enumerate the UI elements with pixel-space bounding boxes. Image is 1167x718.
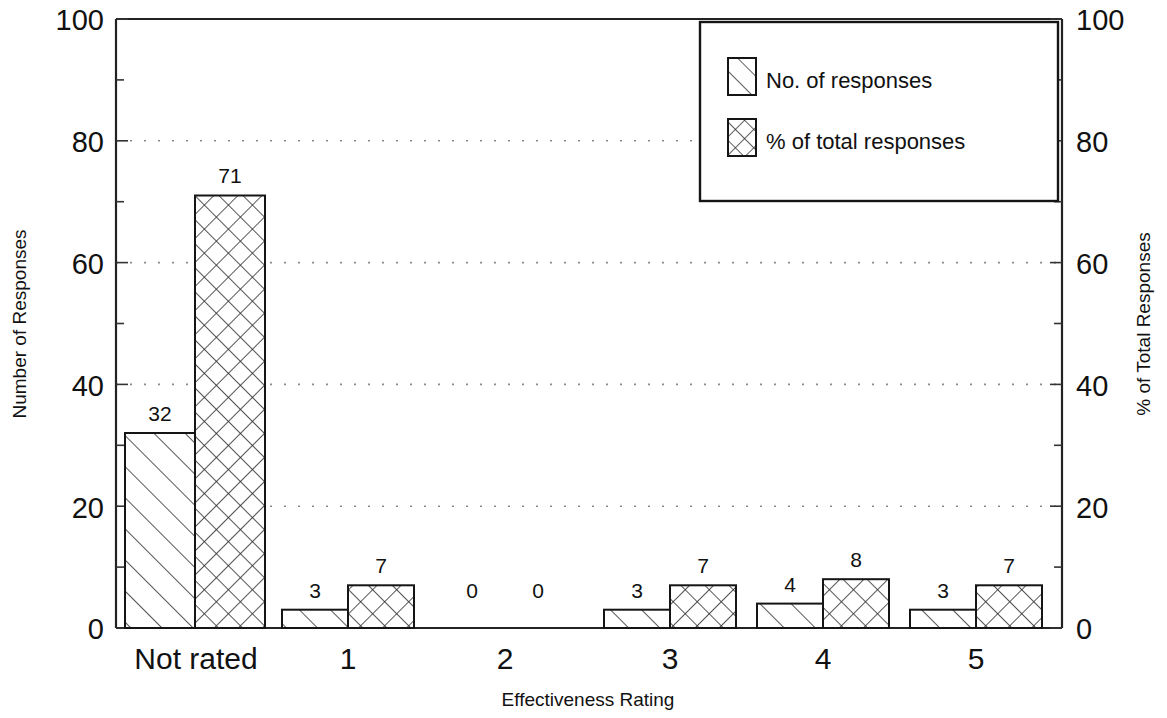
category-label-2: 2 [497, 642, 514, 675]
category-label-not-rated: Not rated [134, 642, 257, 675]
value-label-percent-5: 7 [1003, 554, 1015, 577]
right-tick-label-80: 80 [1076, 126, 1108, 158]
legend-box [700, 22, 1058, 201]
bar-percent-4 [823, 579, 889, 628]
bar-responses-4 [757, 604, 823, 628]
left-tick-label-40: 40 [72, 370, 104, 402]
value-label-responses-3: 3 [631, 579, 643, 602]
value-label-percent-3: 7 [697, 554, 709, 577]
right-axis-title: % of Total Responses [1133, 232, 1154, 415]
legend-label-no-of-responses: No. of responses [766, 68, 932, 93]
value-label-responses-2: 0 [466, 579, 478, 602]
bar-responses-3 [604, 610, 670, 628]
legend: No. of responses % of total responses [700, 22, 1058, 201]
value-label-responses-4: 4 [784, 573, 796, 596]
value-label-percent-2: 0 [532, 579, 544, 602]
right-tick-label-40: 40 [1076, 370, 1108, 402]
value-label-responses-5: 3 [937, 579, 949, 602]
bar-percent-5 [976, 585, 1042, 628]
left-tick-label-20: 20 [72, 492, 104, 524]
left-tick-label-80: 80 [72, 126, 104, 158]
left-tick-label-0: 0 [88, 613, 104, 645]
value-label-percent-1: 7 [375, 554, 387, 577]
bar-percent-not-rated [195, 196, 265, 629]
category-label-4: 4 [815, 642, 832, 675]
right-tick-label-60: 60 [1076, 248, 1108, 280]
right-tick-label-0: 0 [1076, 613, 1092, 645]
left-tick-label-100: 100 [56, 4, 104, 36]
diagonal-hatch-swatch-icon [728, 58, 756, 95]
bar-responses-5 [910, 610, 976, 628]
left-tick-label-60: 60 [72, 248, 104, 280]
category-label-1: 1 [340, 642, 357, 675]
category-label-5: 5 [968, 642, 985, 675]
value-label-percent-4: 8 [850, 548, 862, 571]
left-axis-title: Number of Responses [9, 229, 30, 418]
bar-percent-3 [670, 585, 736, 628]
right-tick-label-20: 20 [1076, 492, 1108, 524]
legend-label-percent-of-total-responses: % of total responses [766, 129, 965, 154]
bar-chart: 0 20 40 60 80 100 0 20 40 60 80 100 32 7… [0, 0, 1167, 718]
cross-hatch-swatch-icon [728, 119, 756, 156]
bar-responses-1 [282, 610, 348, 628]
value-label-responses-not-rated: 32 [148, 402, 171, 425]
category-label-3: 3 [662, 642, 679, 675]
bar-percent-1 [348, 585, 414, 628]
value-label-percent-not-rated: 71 [218, 164, 241, 187]
right-tick-label-100: 100 [1076, 4, 1124, 36]
bar-responses-not-rated [125, 433, 195, 628]
x-axis-title: Effectiveness Rating [502, 689, 675, 710]
value-label-responses-1: 3 [309, 579, 321, 602]
